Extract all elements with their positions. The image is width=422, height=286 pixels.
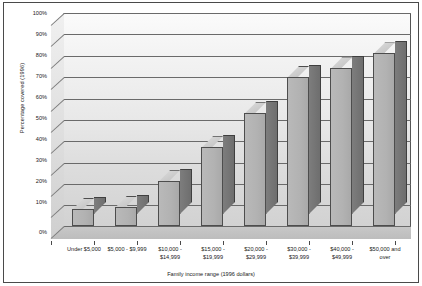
bar-front-face — [158, 181, 180, 226]
x-tick-label-line: $39,999 — [275, 254, 323, 262]
bar-side-face — [309, 65, 321, 214]
x-tickmark — [309, 241, 310, 245]
x-tick-label-line: $15,000 - — [189, 246, 237, 254]
x-tick-label: $50,000 andover — [361, 246, 409, 261]
x-tick-label: $40,000 -$49,999 — [318, 246, 366, 261]
bar-7 — [330, 56, 352, 226]
bar-3 — [158, 169, 180, 226]
y-tick-label-80: 80% — [21, 52, 47, 58]
y-tick-label-70: 70% — [21, 73, 47, 79]
x-tickmark — [180, 241, 181, 245]
x-tick-label: $5,000 - $9,999 — [103, 246, 151, 254]
bar-8 — [373, 41, 395, 226]
bar-front-face — [244, 113, 266, 226]
gridline-0 — [64, 226, 411, 227]
bar-front-face — [287, 77, 309, 226]
bar-front-face — [72, 209, 94, 226]
x-tick-label-line: $30,000 - — [275, 246, 323, 254]
gridline-100 — [64, 13, 411, 14]
bar-side-face — [223, 135, 235, 214]
x-tickmark — [395, 241, 396, 245]
x-tickmark — [51, 241, 52, 245]
bar-side-face — [352, 56, 364, 214]
plot-area — [51, 13, 411, 239]
x-tick-label-line: Under $5,000 — [60, 246, 108, 254]
x-tick-label-line: $14,999 — [146, 254, 194, 262]
y-tick-label-40: 40% — [21, 136, 47, 142]
x-tick-label-line: $29,999 — [232, 254, 280, 262]
x-tick-label: $30,000 -$39,999 — [275, 246, 323, 261]
x-axis-title: Family income range (1996 dollars) — [4, 271, 418, 277]
x-tickmark — [266, 241, 267, 245]
chart-frame: Percentage covered (1996) 100% 90% 80% 7… — [3, 2, 419, 283]
x-tickmark — [137, 241, 138, 245]
bar-1 — [72, 197, 94, 226]
x-tick-label-line: $10,000 - — [146, 246, 194, 254]
x-tick-label: $20,000 -$29,999 — [232, 246, 280, 261]
bar-5 — [244, 101, 266, 226]
x-tickmark — [94, 241, 95, 245]
x-tick-label: $10,000 -$14,999 — [146, 246, 194, 261]
x-tick-label-line: $19,999 — [189, 254, 237, 262]
x-tick-label-line: over — [361, 254, 409, 262]
bar-6 — [287, 65, 309, 226]
bar-side-face — [266, 101, 278, 214]
x-tick-label: Under $5,000 — [60, 246, 108, 254]
y-tick-label-30: 30% — [21, 157, 47, 163]
x-tick-label-line: $20,000 - — [232, 246, 280, 254]
x-tick-label-line: $5,000 - $9,999 — [103, 246, 151, 254]
x-tickmark — [223, 241, 224, 245]
y-tick-label-10: 10% — [21, 199, 47, 205]
x-tick-label-line: $49,999 — [318, 254, 366, 262]
bar-side-face — [395, 41, 407, 214]
x-tick-label: $15,000 -$19,999 — [189, 246, 237, 261]
y-tick-label-0: 0% — [21, 229, 47, 235]
y-tick-label-50: 50% — [21, 115, 47, 121]
bar-4 — [201, 135, 223, 226]
x-tickmark — [352, 241, 353, 245]
y-tick-label-20: 20% — [21, 178, 47, 184]
x-tick-label-line: $50,000 and — [361, 246, 409, 254]
bar-front-face — [201, 147, 223, 226]
gridline-90 — [64, 34, 411, 35]
bar-front-face — [373, 53, 395, 226]
bar-2 — [115, 195, 137, 226]
x-tick-label-line: $40,000 - — [318, 246, 366, 254]
y-tick-label-60: 60% — [21, 94, 47, 100]
plot-floor — [51, 226, 411, 239]
y-tick-label-90: 90% — [21, 31, 47, 37]
bar-front-face — [330, 68, 352, 226]
bar-front-face — [115, 207, 137, 226]
y-tick-label-100: 100% — [21, 10, 47, 16]
